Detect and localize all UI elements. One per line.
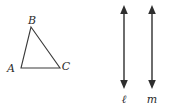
line-label-l: ℓ (122, 93, 127, 106)
line-l-group (120, 5, 128, 89)
line-m-group (148, 5, 156, 89)
vertex-label-c: C (62, 60, 71, 73)
line-m-arrowhead-bottom (148, 80, 156, 89)
line-l-arrowhead-bottom (120, 80, 128, 89)
vertex-label-b: B (27, 14, 36, 27)
figure-canvas: B A C ℓ m (0, 0, 169, 107)
vertex-label-a: A (6, 62, 15, 75)
triangle-abc (21, 27, 60, 68)
geometry-figure: B A C ℓ m (0, 0, 169, 107)
triangle-outline (21, 27, 60, 68)
line-label-m: m (147, 93, 157, 106)
line-l-arrowhead-top (120, 5, 128, 14)
line-m-arrowhead-top (148, 5, 156, 14)
